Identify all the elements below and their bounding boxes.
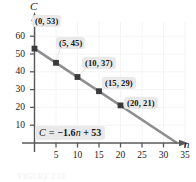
data-point-marker	[96, 88, 102, 94]
x-tick-label-5: 5	[48, 150, 64, 160]
callout-point-1: (5, 45)	[56, 37, 85, 49]
y-tick-label-10: 10	[9, 120, 25, 130]
y-tick-label-40: 40	[9, 66, 25, 76]
y-tick-label-30: 30	[9, 84, 25, 94]
callout-point-4: (20, 21)	[124, 97, 158, 109]
x-tick-label-25: 25	[134, 150, 150, 160]
data-point-marker	[53, 60, 59, 66]
equation-plus: +	[81, 127, 92, 138]
figure-caption: FIGURE 2.13	[18, 172, 65, 181]
equation-slope: −1.6	[57, 127, 75, 138]
x-tick-label-20: 20	[113, 150, 129, 160]
data-point-marker	[118, 103, 124, 109]
x-tick-label-15: 15	[91, 150, 107, 160]
callout-point-2: (10, 37)	[82, 57, 116, 69]
y-tick-label-60: 60	[9, 31, 25, 41]
x-tick-label-10: 10	[70, 150, 86, 160]
y-tick-label-20: 20	[9, 102, 25, 112]
x-tick-label-35: 35	[177, 150, 193, 160]
data-point-marker	[75, 74, 81, 80]
callout-point-0: (0, 53)	[32, 15, 61, 27]
callout-point-3: (15, 29)	[102, 77, 136, 89]
equation-annotation: C = −1.6n + 53	[35, 126, 105, 140]
y-tick-label-50: 50	[9, 49, 25, 59]
data-point-marker	[32, 46, 38, 52]
y-axis-label: C	[30, 0, 37, 12]
x-tick-label-30: 30	[156, 150, 172, 160]
x-axis-label: n	[184, 138, 190, 150]
equation-lhs: C =	[39, 127, 57, 138]
linear-function-figure: C n 10 20 30 40 50 60 5 10 15 20 25 30 3…	[0, 0, 196, 182]
equation-intercept: 53	[91, 127, 101, 138]
